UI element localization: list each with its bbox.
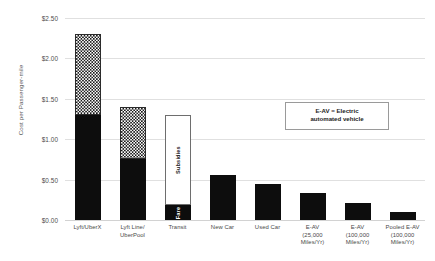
x-axis-label-line: UberPool (110, 232, 155, 240)
bar-group (110, 18, 155, 220)
annotation-box: E-AV = Electric automated vehicle (285, 102, 389, 130)
y-tick-label: $1.50 (42, 95, 58, 102)
bar-group (245, 18, 290, 220)
bar-group (200, 18, 245, 220)
bar-group: SubsidiesFare (155, 18, 200, 220)
bar-segment[interactable]: Fare (165, 205, 191, 220)
x-axis-label-line: Lyft Line/ (110, 224, 155, 232)
x-axis-label-line: E-AV (290, 224, 335, 232)
bar-stack[interactable] (75, 34, 101, 220)
bar-stack[interactable] (300, 193, 326, 220)
bar-segment[interactable] (75, 115, 101, 220)
bar-segment[interactable]: Subsidies (165, 115, 191, 205)
y-axis-title: Cost per Passenger-mile (14, 0, 28, 200)
cost-per-passenger-mile-chart: Cost per Passenger-mile $2.50$2.00$1.50$… (0, 0, 435, 261)
x-axis-label-line: New Car (200, 224, 245, 232)
bar-segment[interactable] (75, 34, 101, 115)
bar-stack[interactable] (255, 184, 281, 220)
y-tick-label: $2.50 (42, 15, 58, 22)
x-axis-label-line: Miles/Yr) (290, 239, 335, 247)
x-axis-label: Transit (155, 224, 200, 232)
x-axis-label: Lyft Line/UberPool (110, 224, 155, 239)
bar-segment[interactable] (120, 107, 146, 159)
x-axis-label: Pooled E-AV(100,000Miles/Yr) (380, 224, 425, 247)
x-axis-label-line: (100,000 (380, 232, 425, 240)
bar-segment-label-subsidies: Subsidies (175, 146, 181, 174)
annotation-line-1: E-AV = Electric (289, 107, 385, 115)
y-tick-label: $0.00 (42, 217, 58, 224)
bar-stack[interactable] (120, 107, 146, 220)
x-axis-label: Used Car (245, 224, 290, 232)
x-axis-label-line: (100,000 (335, 232, 380, 240)
x-axis-label-line: Used Car (245, 224, 290, 232)
x-axis-label-line: E-AV (335, 224, 380, 232)
bar-group (65, 18, 110, 220)
x-axis-label-line: Pooled E-AV (380, 224, 425, 232)
bar-segment-label-fare: Fare (175, 207, 181, 219)
bar-stack[interactable]: SubsidiesFare (165, 115, 191, 220)
x-axis-label-line: Miles/Yr) (380, 239, 425, 247)
annotation-line-2: automated vehicle (289, 115, 385, 123)
x-axis-label: Lyft/UberX (65, 224, 110, 232)
bar-segment[interactable] (120, 159, 146, 220)
x-axis-label: E-AV(25,000Miles/Yr) (290, 224, 335, 247)
y-tick-label: $2.00 (42, 55, 58, 62)
x-axis-label-line: Transit (155, 224, 200, 232)
x-axis-label-line: (25,000 (290, 232, 335, 240)
x-axis-category-labels: Lyft/UberXLyft Line/UberPoolTransitNew C… (65, 224, 425, 258)
x-axis-label: E-AV(100,000Miles/Yr) (335, 224, 380, 247)
bar-segment[interactable] (210, 175, 236, 220)
bar-segment[interactable] (255, 184, 281, 220)
bar-stack[interactable] (390, 212, 416, 220)
bar-segment[interactable] (345, 203, 371, 220)
x-axis-label: New Car (200, 224, 245, 232)
bar-stack[interactable] (345, 203, 371, 220)
bar-segment[interactable] (300, 193, 326, 220)
bar-stack[interactable] (210, 175, 236, 220)
bar-segment[interactable] (390, 212, 416, 220)
gridline: $0.00 (65, 220, 425, 221)
y-tick-label: $1.00 (42, 136, 58, 143)
y-tick-label: $0.50 (42, 176, 58, 183)
x-axis-label-line: Miles/Yr) (335, 239, 380, 247)
x-axis-label-line: Lyft/UberX (65, 224, 110, 232)
